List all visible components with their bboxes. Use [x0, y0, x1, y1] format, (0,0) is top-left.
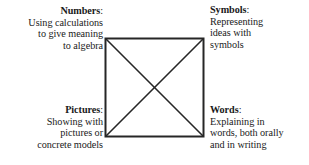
quadrant-label-symbols: Symbols: Representing ideas with symbols: [210, 4, 309, 50]
quadrant-desc-line-1-numbers: Using calculations: [0, 17, 103, 29]
quadrant-heading-symbols: Symbols:: [210, 4, 309, 16]
quadrant-term-words: Words: [210, 104, 239, 115]
quadrant-heading-words: Words:: [210, 104, 309, 116]
square-outline: [106, 39, 204, 137]
diagonal-top-left-to-bottom-right: [106, 39, 203, 136]
quadrant-separator-pictures: :: [100, 104, 103, 115]
quadrant-desc-line-3-numbers: to algebra: [0, 40, 103, 52]
quadrant-heading-numbers: Numbers:: [0, 5, 103, 17]
quadrant-heading-pictures: Pictures:: [0, 104, 103, 116]
representations-diagram: Numbers: Using calculations to give mean…: [0, 0, 309, 165]
diagonal-top-right-to-bottom-left: [106, 39, 203, 136]
quadrant-desc-line-3-symbols: symbols: [210, 39, 309, 51]
quadrant-separator-symbols: :: [246, 4, 249, 15]
quadrant-desc-line-3-pictures: concrete models: [0, 139, 103, 151]
quadrant-term-symbols: Symbols: [210, 4, 246, 15]
quadrant-desc-line-2-numbers: to give meaning: [0, 28, 103, 40]
quadrant-term-pictures: Pictures: [65, 104, 100, 115]
quadrant-separator-words: :: [239, 104, 242, 115]
quadrant-desc-line-2-symbols: ideas with: [210, 27, 309, 39]
quadrant-label-pictures: Pictures: Showing with pictures or concr…: [0, 104, 103, 150]
quadrant-desc-line-2-words: words, both orally: [210, 127, 309, 139]
quadrant-desc-line-1-words: Explaining in: [210, 116, 309, 128]
quadrant-desc-line-2-pictures: pictures or: [0, 127, 103, 139]
quadrant-term-numbers: Numbers: [60, 5, 100, 16]
quadrant-desc-line-3-words: and in writing: [210, 139, 309, 151]
quadrant-label-words: Words: Explaining in words, both orally …: [210, 104, 309, 150]
quadrant-separator-numbers: :: [100, 5, 103, 16]
quadrant-label-numbers: Numbers: Using calculations to give mean…: [0, 5, 103, 51]
quadrant-desc-line-1-pictures: Showing with: [0, 116, 103, 128]
quadrant-desc-line-1-symbols: Representing: [210, 16, 309, 28]
